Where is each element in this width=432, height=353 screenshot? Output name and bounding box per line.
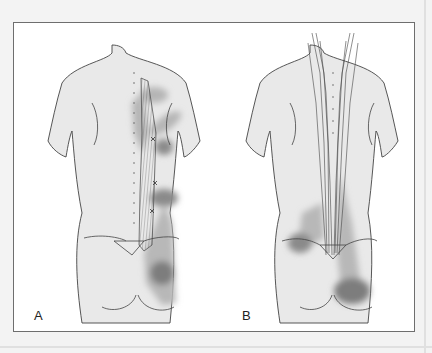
back-anatomy-illustration-b (212, 23, 412, 331)
page-edge-right (424, 0, 426, 353)
back-anatomy-illustration-a (14, 23, 214, 331)
panel-b: B (212, 23, 412, 331)
panel-label-a: A (34, 308, 43, 323)
figure-frame: A (13, 22, 415, 332)
page-edge-bottom (0, 346, 432, 348)
panel-a: A (14, 23, 214, 331)
panel-label-b: B (242, 308, 251, 323)
